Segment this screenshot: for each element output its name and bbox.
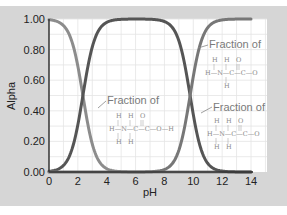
x-tick-label: 6 [133,175,139,187]
y-tick-label: 0.00 [24,166,45,178]
svg-text:O: O [236,56,241,64]
svg-text:H: H [214,143,220,151]
svg-text:H: H [116,138,122,146]
y-axis-title: Alpha [5,81,17,110]
annotation-label: Fraction of [213,101,266,113]
svg-text:H: H [214,117,220,125]
svg-text:H: H [128,138,134,146]
y-tick-label: 0.80 [24,44,45,56]
x-tick-label: 2 [75,175,81,187]
svg-text:H—N—C—C—O: H—N—C—C—O [207,130,260,138]
svg-text:H: H [212,56,218,64]
annotation-label: Fraction of [209,38,262,50]
svg-text:H: H [226,117,232,125]
y-tick-label: 1.00 [24,13,45,25]
svg-text:H: H [128,112,134,120]
svg-text:O: O [140,112,145,120]
y-tick-label: 0.20 [24,135,45,147]
svg-text:H: H [116,112,122,120]
svg-text:H: H [226,143,232,151]
alpha-vs-ph-chart: 0.000.200.400.600.801.00 02468101214 pH … [0,0,287,215]
svg-text:H—N—C—C—O: H—N—C—C—O [205,69,258,77]
svg-text:H—N—C—C—O—H: H—N—C—C—O—H [109,125,174,133]
svg-text:O: O [238,117,243,125]
x-axis-title: pH [143,186,157,198]
x-tick-label: 0 [46,175,52,187]
annotation-label: Fraction of [107,94,160,106]
x-tick-label: 12 [216,175,228,187]
x-tick-label: 4 [104,175,110,187]
x-tick-label: 14 [245,175,257,187]
chart-canvas: 0.000.200.400.600.801.00 02468101214 pH … [0,0,287,215]
y-tick-label: 0.60 [24,74,45,86]
y-tick-label: 0.40 [24,105,45,117]
svg-text:H: H [224,82,230,90]
svg-text:H: H [224,56,230,64]
x-tick-label: 10 [187,175,199,187]
x-tick-label: 8 [161,175,167,187]
